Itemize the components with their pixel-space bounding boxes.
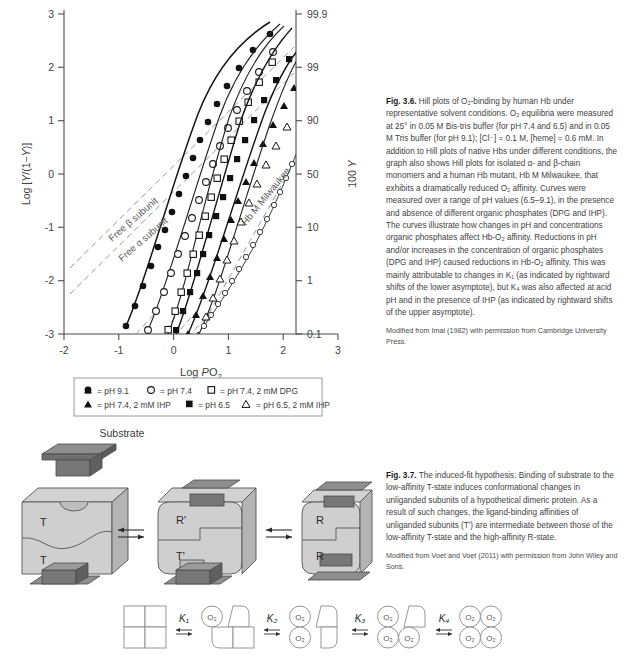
y-axis-left-ticks (58, 14, 64, 334)
legend-label-ph-6-5: = pH 6.5 (198, 400, 230, 410)
ligand-label: O₂ (207, 613, 216, 622)
substrate-block-free-top (42, 444, 116, 476)
fig-3-7-caption-body: The induced-fit hypothesis. Binding of s… (386, 471, 614, 542)
y2-tick-label: 10 (307, 221, 319, 233)
y2-tick-label: 50 (307, 168, 319, 180)
fig-3-7-source: Modified from Voet and Voet (2011) with … (386, 551, 618, 572)
fig-3-6-caption: Fig. 3.6. Hill plots of O₂-binding by hu… (386, 96, 618, 347)
y-axis-right-ticks (296, 14, 302, 334)
ligand-label: O₂ (295, 634, 304, 643)
adair-equilibrium-scheme: O₂ O₂ O₂ O₂ O₂ O₂ O₂ O₂ O₂ O₂ (120, 598, 510, 656)
legend-box (74, 378, 322, 416)
x-tick-label: -2 (59, 344, 68, 356)
ligand-label: O₂ (465, 634, 474, 643)
equilibrium-constant: K₃ (355, 613, 366, 624)
y-tick-label: -1 (45, 221, 54, 233)
y-axis-right-tick-labels: 0.1 1 10 50 90 99 99.9 (307, 8, 328, 340)
induced-fit-svg: Substrate T T (4, 424, 376, 596)
ligand-label: O₂ (486, 613, 495, 622)
y-tick-label: -2 (45, 274, 54, 286)
fig-3-7-caption-label: Fig. 3.7. (386, 471, 416, 480)
equilibrium-constant: K₁ (179, 613, 189, 624)
legend-filled-square-icon (186, 401, 193, 408)
legend-open-circle-icon (148, 387, 155, 394)
state-label-bottom: T (40, 554, 47, 566)
fig-3-7-caption: Fig. 3.7. The induced-fit hypothesis. Bi… (386, 470, 618, 572)
state-label-top: R' (176, 514, 186, 526)
y-tick-label: -3 (45, 328, 54, 340)
fig-3-6-source: Modified from Imai (1982) with permissio… (386, 326, 618, 347)
x-tick-label: 3 (335, 344, 341, 356)
protein-state-T-T: T T (22, 488, 128, 574)
legend-label-ph-7-4-dpg: = pH 7.4, 2 mM DPG (220, 386, 298, 396)
markers-ph-7-4 (145, 49, 277, 334)
equilibrium-constant: K₂ (267, 613, 278, 624)
state-label-top: R (316, 514, 324, 526)
y2-axis-title: 100 Y (346, 159, 358, 187)
ligand-label: O₂ (383, 613, 392, 622)
y2-tick-label: 99 (307, 61, 319, 73)
x-tick-label: -1 (114, 344, 123, 356)
y2-tick-label: 1 (307, 274, 313, 286)
fig-3-6-caption-body: Hill plots of O₂-binding by human Hb und… (386, 97, 617, 317)
substrate-label: Substrate (100, 427, 145, 439)
hill-plot-svg: -3 -2 -1 0 1 2 3 -2 -1 0 1 (8, 4, 374, 424)
fig-3-6-hill-plot: -3 -2 -1 0 1 2 3 -2 -1 0 1 (8, 4, 374, 424)
curve-ph-9-1 (126, 22, 270, 326)
legend-label-ph-9-1: = pH 9.1 (97, 386, 129, 396)
legend-label-ph-7-4: = pH 7.4 (160, 386, 192, 396)
y-tick-label: 2 (48, 61, 54, 73)
protein-state-R-R: R R (302, 482, 372, 580)
adair-state-0 (124, 606, 166, 648)
y2-tick-label: 90 (307, 114, 319, 126)
state-label-bottom: T' (176, 550, 185, 562)
y-tick-label: 3 (48, 8, 54, 20)
x-tick-label: 2 (280, 344, 286, 356)
x-axis-ticks (64, 334, 338, 340)
y2-tick-label: 99.9 (307, 8, 328, 20)
ligand-label: O₂ (465, 613, 474, 622)
y-tick-label: 1 (48, 114, 54, 126)
legend-open-square-icon (208, 387, 215, 394)
markers-ph-6-5 (173, 56, 292, 333)
equilibrium-constant: K₄ (439, 613, 450, 624)
fig-3-6-legend: = pH 9.1 = pH 7.4 = pH 7.4, 2 mM DPG = p… (74, 378, 330, 416)
legend-label-ph-6-5-ihp: = pH 6.5, 2 mM IHP (256, 400, 330, 410)
y-tick-label: 0 (48, 168, 54, 180)
x-tick-label: 1 (225, 344, 231, 356)
ligand-label: O₂ (404, 634, 413, 643)
y-axis-title: Log [Y/(1−Y)] (20, 143, 32, 205)
adair-svg: O₂ O₂ O₂ O₂ O₂ O₂ O₂ O₂ O₂ O₂ (120, 598, 510, 656)
x-tick-label: 0 (171, 344, 177, 356)
page-root: -3 -2 -1 0 1 2 3 -2 -1 0 1 (0, 0, 625, 657)
x-axis-tick-labels: -2 -1 0 1 2 3 (59, 344, 341, 356)
ligand-label: O₂ (486, 634, 495, 643)
fig-3-6-caption-label: Fig. 3.6. (386, 97, 416, 106)
fig-3-7-induced-fit-diagram: Substrate T T (4, 424, 376, 596)
state-label-top: T (40, 516, 47, 528)
ligand-label: O₂ (295, 613, 304, 622)
protein-state-Rprime-Tprime: R' T' (158, 480, 256, 574)
y-axis-left-tick-labels: -3 -2 -1 0 1 2 3 (45, 8, 55, 340)
y2-tick-label: 0.1 (307, 328, 322, 340)
equilibrium-arrow-2 (266, 527, 292, 539)
state-label-bottom: R (316, 550, 324, 562)
ligand-label: O₂ (383, 634, 392, 643)
legend-label-ph-7-4-ihp: = pH 7.4, 2 mM IHP (97, 400, 171, 410)
